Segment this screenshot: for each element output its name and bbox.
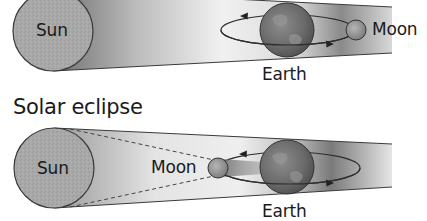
solar-eclipse-title: Solar eclipse bbox=[13, 97, 143, 118]
top-panel bbox=[13, 0, 392, 71]
earth-bottom bbox=[260, 140, 314, 194]
bottom-panel bbox=[14, 128, 392, 208]
sun-label-top: Sun bbox=[36, 22, 68, 39]
light-band-top bbox=[53, 0, 392, 71]
moon-label-bottom: Moon bbox=[151, 159, 196, 176]
moon-bottom bbox=[208, 158, 228, 178]
moon-top bbox=[346, 20, 366, 40]
earth-label-top: Earth bbox=[262, 66, 307, 83]
earth-label-bottom: Earth bbox=[262, 203, 307, 220]
moon-label-top: Moon bbox=[372, 21, 417, 38]
diagram-canvas: Sun Moon Earth Solar eclipse Sun Moon Ea… bbox=[0, 0, 427, 221]
earth-top bbox=[260, 3, 314, 57]
sun-label-bottom: Sun bbox=[37, 160, 69, 177]
